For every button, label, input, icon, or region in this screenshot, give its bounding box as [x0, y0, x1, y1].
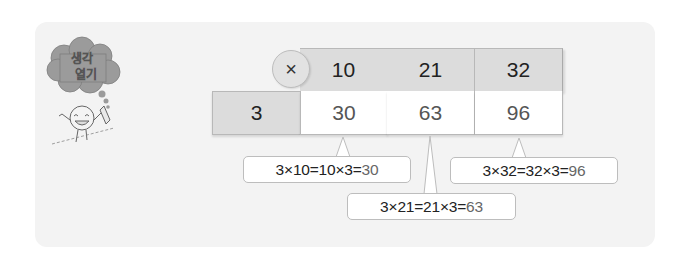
callout-expression: 3×10=10×3=	[276, 161, 362, 179]
callout-result: 63	[466, 198, 483, 216]
product-cell: 63	[387, 91, 475, 135]
product-cell: 96	[475, 91, 563, 135]
column-header: 21	[387, 48, 475, 92]
callout-3x21: 3×21=21×3=63	[347, 193, 516, 220]
callout-result: 30	[362, 161, 379, 179]
product-cell: 30	[300, 91, 388, 135]
badge-line1: 생각	[71, 51, 93, 66]
callout-expression: 3×21=21×3=	[380, 198, 466, 216]
times-operator-badge: ×	[272, 50, 310, 88]
column-header: 10	[300, 48, 388, 92]
badge-line2: 열기	[75, 67, 97, 82]
callout-3x32: 3×32=32×3=96	[450, 157, 618, 184]
multiplication-table: × 10 21 32 3 30 63 96	[212, 48, 564, 135]
callout-result: 96	[569, 162, 586, 180]
callout-3x10: 3×10=10×3=30	[243, 156, 411, 183]
column-header: 32	[475, 48, 563, 92]
thought-cloud-mascot-icon: 생각 열기	[44, 36, 134, 146]
callout-expression: 3×32=32×3=	[483, 162, 569, 180]
row-header-multiplier: 3	[212, 91, 300, 135]
